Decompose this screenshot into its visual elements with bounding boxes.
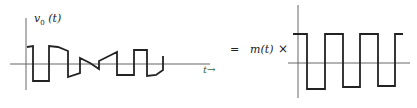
equals-sign: = [230,43,239,56]
multiply-sign: × [278,42,288,56]
diagram-canvas [0,0,417,108]
output-voltage-label: v0 (t) [34,12,61,27]
modulating-signal-label: m(t) [250,43,273,56]
left-plot [10,18,210,90]
time-axis-label: t→ [203,64,215,75]
right-plot [288,5,410,98]
square-wave-carrier [293,34,403,89]
